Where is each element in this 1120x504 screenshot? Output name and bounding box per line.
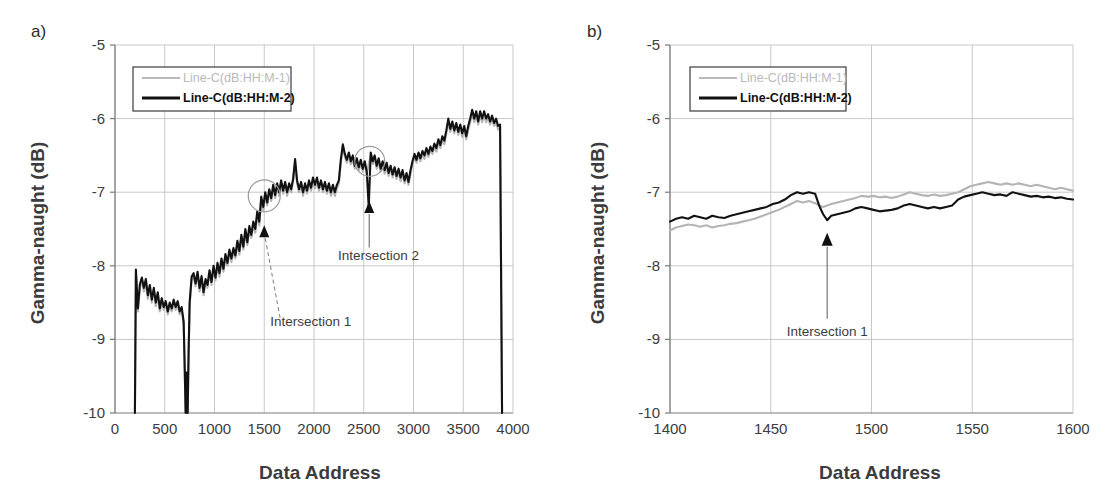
intersection-1-leader: [265, 238, 280, 318]
legend-label-m1: Line-C(dB:HH:M-1): [183, 71, 290, 85]
panel-b-ylabel: Gamma-naught (dB): [587, 113, 609, 353]
series-line-m1: [135, 113, 502, 413]
intersection-2-arrowhead: [364, 201, 374, 213]
x-tick-label: 3000: [397, 420, 430, 437]
x-tick-label: 1500: [248, 420, 281, 437]
x-tick-label: 2000: [297, 420, 330, 437]
legend-label-m2: Line-C(dB:HH:M-2): [740, 91, 852, 105]
x-tick-label: 1550: [956, 420, 989, 437]
y-tick-label: -5: [647, 36, 660, 53]
panel-a-xlabel: Data Address: [180, 462, 460, 484]
x-tick-label: 500: [152, 420, 177, 437]
intersection-1-arrowhead: [822, 233, 833, 246]
intersection-1-label: Intersection 1: [787, 324, 868, 339]
intersection-1-arrowhead: [259, 225, 269, 237]
y-tick-label: -6: [92, 110, 105, 127]
x-tick-label: 0: [111, 420, 119, 437]
x-tick-label: 1450: [754, 420, 787, 437]
x-tick-label: 3500: [447, 420, 480, 437]
x-tick-label: 1000: [198, 420, 231, 437]
y-tick-label: -7: [92, 183, 105, 200]
panel-b-plot: -10-9-8-7-6-514001450150015501600Interse…: [560, 0, 1120, 440]
x-tick-label: 1500: [855, 420, 888, 437]
legend-label-m1: Line-C(dB:HH:M-1): [740, 71, 847, 85]
y-tick-label: -9: [92, 330, 105, 347]
series-line-m2: [135, 110, 502, 413]
intersection-2-label: Intersection 2: [338, 248, 419, 263]
legend-label-m2: Line-C(dB:HH:M-2): [183, 91, 295, 105]
y-tick-label: -6: [647, 110, 660, 127]
panel-b-xlabel: Data Address: [740, 462, 1020, 484]
y-tick-label: -9: [647, 330, 660, 347]
y-tick-label: -10: [83, 404, 105, 421]
x-tick-label: 4000: [496, 420, 529, 437]
intersection-1-label: Intersection 1: [270, 314, 351, 329]
panel-a-plot: -10-9-8-7-6-5050010001500200025003000350…: [0, 0, 560, 440]
panel-a-ylabel: Gamma-naught (dB): [27, 113, 49, 353]
y-tick-label: -7: [647, 183, 660, 200]
x-tick-label: 1600: [1056, 420, 1089, 437]
y-tick-label: -8: [92, 257, 105, 274]
figure-container: a) -10-9-8-7-6-5050010001500200025003000…: [0, 0, 1120, 504]
x-tick-label: 2500: [347, 420, 380, 437]
x-tick-label: 1400: [653, 420, 686, 437]
y-tick-label: -8: [647, 257, 660, 274]
y-tick-label: -5: [92, 36, 105, 53]
y-tick-label: -10: [638, 404, 660, 421]
